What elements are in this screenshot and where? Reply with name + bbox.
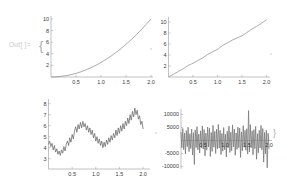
- output-cell: Out[ ]= { , , , } 2468100.51.01.52.0 246…: [0, 0, 287, 184]
- svg-text:10000: 10000: [164, 111, 179, 117]
- svg-text:-5000: -5000: [165, 150, 179, 156]
- svg-text:1.0: 1.0: [221, 142, 229, 148]
- svg-text:2.0: 2.0: [265, 142, 273, 148]
- plot-bottom-right-white-noise: 100005000-5000-100000.51.01.52.0: [0, 0, 287, 184]
- svg-text:1.5: 1.5: [243, 142, 251, 148]
- svg-text:0.5: 0.5: [199, 142, 207, 148]
- svg-text:-10000: -10000: [162, 163, 179, 169]
- svg-text:5000: 5000: [167, 124, 179, 130]
